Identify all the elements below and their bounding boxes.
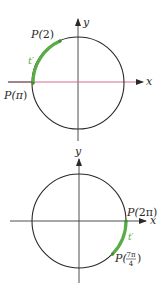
fraction-numerator: 7π (126, 251, 135, 259)
top-label-P-pi: P(π) (3, 89, 27, 102)
top-arc-label: t′ (28, 55, 35, 66)
bottom-point-P-7pi4-dot (111, 252, 114, 255)
svg-text:P(π): P(π) (3, 89, 27, 102)
fraction-close-paren: ) (137, 252, 141, 265)
svg-text:P(2π): P(2π) (126, 206, 157, 219)
top-point-P-pi-dot (31, 81, 34, 84)
top-diagram: y x t′ P(2) P(π) (3, 16, 153, 141)
top-x-axis-label: x (146, 75, 153, 88)
top-arc-t-prime (33, 41, 60, 83)
bottom-label-P-2pi: P(2π) (126, 206, 157, 219)
bottom-point-P-2pi-dot (124, 219, 127, 222)
bottom-y-axis-label: y (74, 145, 82, 158)
top-label-P-2: P(2) (30, 28, 54, 41)
unit-circle-figure: y x t′ P(2) P(π) y x t′ (0, 0, 166, 291)
svg-text:P(: P( (114, 252, 127, 265)
top-point-P-2-dot (58, 39, 61, 42)
svg-text:P(2): P(2) (30, 28, 54, 41)
bottom-label-P-7pi-over-4: P( 7π 4 ) (114, 251, 141, 268)
bottom-diagram: y x t′ P(2π) P( 7π 4 ) (10, 145, 157, 283)
bottom-arc-label: t′ (128, 232, 134, 242)
top-y-axis-label: y (82, 16, 90, 29)
fraction-denominator: 4 (129, 260, 134, 268)
bottom-arc-t-prime (113, 221, 127, 254)
